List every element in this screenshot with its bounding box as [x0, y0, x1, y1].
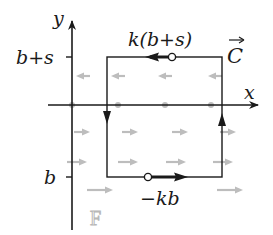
field-arrow-icon: [74, 129, 90, 136]
field-arrow-icon: [67, 159, 87, 166]
field-arrow-icon: [111, 73, 125, 80]
field-arrow-icon: [213, 159, 233, 166]
tick-label-b-plus-s: b+s: [16, 46, 54, 68]
field-arrow-icon: [217, 187, 243, 194]
bottom-edge-label: −kb: [140, 187, 180, 209]
top-edge-point-marker: [168, 53, 175, 60]
vector-field-diagram: y x b+s b k(b+s) −kb C F: [0, 0, 273, 235]
curve-c-label: C: [227, 44, 243, 68]
field-arrow-icon: [118, 159, 138, 166]
left-edge-down-arrow-icon: [103, 111, 111, 124]
right-edge-up-arrow-icon: [218, 113, 226, 126]
field-arrow-icon: [208, 73, 222, 80]
vector-field-arrows: [67, 73, 243, 194]
top-edge-left-arrow-icon: [145, 53, 159, 62]
bottom-edge-right-arrow-icon: [174, 173, 188, 182]
field-arrow-icon: [172, 129, 188, 136]
vector-arrow-over-c-icon: [229, 37, 244, 43]
field-arrow-icon: [158, 73, 172, 80]
x-axis-label: x: [244, 81, 255, 103]
field-arrow-icon: [76, 73, 90, 80]
field-arrow-icon: [122, 129, 138, 136]
field-f-label: F: [90, 207, 101, 229]
field-arrow-icon: [87, 187, 113, 194]
y-axis-label: y: [52, 7, 64, 29]
tick-label-b: b: [44, 166, 56, 188]
field-arrow-icon: [166, 159, 186, 166]
bottom-edge-point-marker: [144, 173, 151, 180]
top-edge-label: k(b+s): [128, 28, 192, 50]
diagram-svg: y x b+s b k(b+s) −kb C F: [0, 0, 273, 235]
